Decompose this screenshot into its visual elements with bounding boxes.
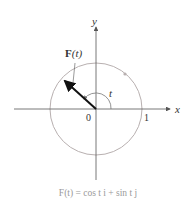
vector-arrow: [65, 81, 96, 109]
unit-tick-label: 1: [144, 112, 149, 123]
angle-label: t: [109, 87, 113, 99]
x-axis-label: x: [174, 103, 180, 115]
origin-label: 0: [86, 112, 91, 123]
caption: F(t) = cos t i + sin t j: [59, 188, 137, 199]
direction-dot-icon: [123, 72, 126, 75]
y-axis-label: y: [91, 15, 97, 27]
vector-label-arg: (t): [72, 47, 83, 60]
vector-label: F(t): [65, 47, 82, 60]
label-leader: [73, 63, 75, 83]
unit-circle-diagram: y x 0 1 t F(t) F(t) = cos t i + sin t j: [0, 0, 196, 205]
